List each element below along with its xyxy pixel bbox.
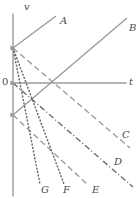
series-line-b [13,18,127,115]
series-label-e: E [92,185,99,195]
series-label-a: A [60,16,67,26]
series-line-a [13,16,56,48]
origin-label: 0 [2,77,8,87]
v-axis-label: v [24,2,30,12]
plot-canvas [0,0,140,198]
t-axis-label: t [129,77,133,87]
series-label-c: C [122,130,130,140]
series-label-f: F [63,185,70,195]
series-label-d: D [114,157,122,167]
series-label-b: B [129,23,136,33]
series-label-g: G [41,185,49,195]
series-line-f [13,48,64,184]
vt-graph-figure: v t 0 ABCDEFG [0,0,140,198]
